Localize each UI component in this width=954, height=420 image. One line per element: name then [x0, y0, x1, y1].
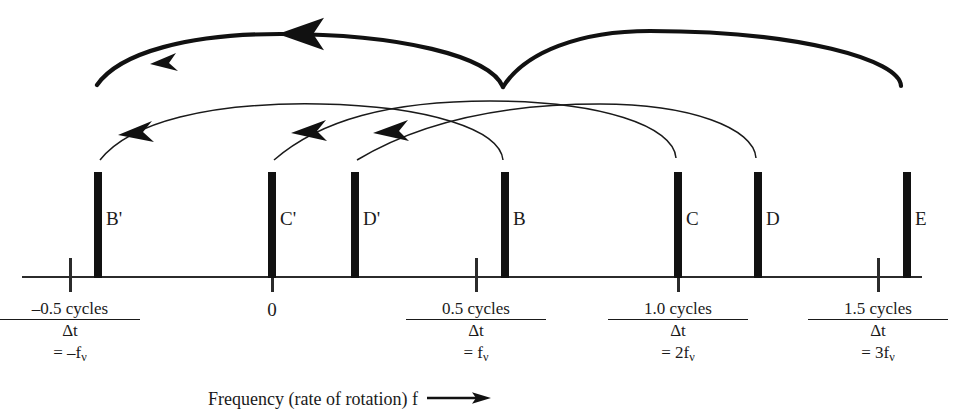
axis-label-one-half: 1.5 cycles Δt = 3fν: [808, 299, 948, 365]
axis-label-neg-half-equals: = –fν: [0, 340, 140, 365]
arc-E-right-segment: [503, 31, 901, 87]
axis-label-one: 1.0 cycles Δt = 2fν: [608, 299, 748, 365]
arc-E-arrowhead-icon: [150, 53, 178, 71]
spike-label-C: C: [686, 209, 699, 228]
tick-half: [475, 258, 478, 292]
axis-label-one-subscript: ν: [689, 350, 695, 364]
arc-D-arrowhead-icon: [373, 120, 409, 141]
axis-label-neg-half-subscript: ν: [81, 350, 87, 364]
spike-label-Dprime: D': [363, 209, 380, 228]
x-axis-caption: Frequency (rate of rotation) f: [208, 389, 493, 410]
axis-label-zero: 0: [242, 299, 302, 321]
tick-one-half: [877, 258, 880, 292]
spike-label-Bprime: B': [106, 209, 122, 228]
spike-C: [674, 172, 682, 278]
axis-label-neg-half: –0.5 cycles Δt = –fν: [0, 299, 140, 365]
spike-label-B: B: [513, 209, 526, 228]
spike-E: [903, 172, 911, 278]
axis-label-one-half-denominator: Δt: [808, 320, 948, 340]
spike-Cprime: [268, 172, 276, 278]
right-arrow-icon: [427, 389, 493, 410]
axis-label-half-equals: = fν: [406, 340, 546, 365]
axis-label-half-denominator: Δt: [406, 320, 546, 340]
axis-label-half: 0.5 cycles Δt = fν: [406, 299, 546, 365]
spike-label-D: D: [766, 209, 780, 228]
spike-label-E: E: [915, 209, 927, 228]
spike-Bprime: [94, 172, 102, 278]
axis-label-one-denominator: Δt: [608, 320, 748, 340]
axis-label-neg-half-numerator: –0.5 cycles: [0, 299, 140, 320]
spike-B: [501, 172, 509, 278]
axis-label-one-half-subscript: ν: [889, 350, 895, 364]
x-axis-caption-text: Frequency (rate of rotation) f: [208, 389, 418, 410]
axis-label-half-numerator: 0.5 cycles: [406, 299, 546, 320]
axis-label-one-equals: = 2fν: [608, 340, 748, 365]
aliasing-frequency-diagram: B' C' D' B C D E –0.5 cycles Δt = –fν 0 …: [0, 0, 954, 420]
axis-label-one-half-numerator: 1.5 cycles: [808, 299, 948, 320]
axis-label-neg-half-denominator: Δt: [0, 320, 140, 340]
arc-E-to-Bprime: [97, 34, 503, 87]
spike-D: [754, 172, 762, 278]
tick-neg-half: [69, 258, 72, 292]
axis-label-one-numerator: 1.0 cycles: [608, 299, 748, 320]
spike-Dprime: [351, 172, 359, 278]
axis-label-half-subscript: ν: [483, 350, 489, 364]
axis-label-one-half-equals: = 3fν: [808, 340, 948, 365]
spike-label-Cprime: C': [280, 209, 296, 228]
